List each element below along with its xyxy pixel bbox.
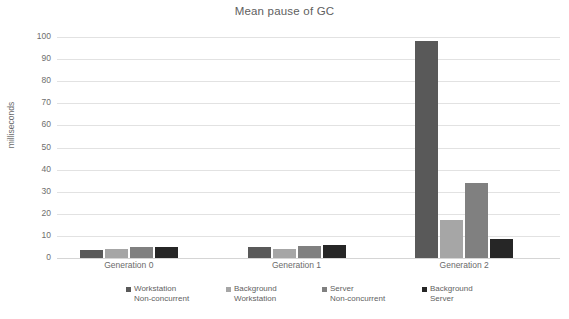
x-axis-category-label: Generation 1 <box>228 260 366 270</box>
legend-swatch-icon <box>322 287 327 292</box>
legend-item[interactable]: Background Server <box>422 284 473 304</box>
y-axis-tick-label: 90 <box>11 53 51 63</box>
bar <box>415 41 438 258</box>
legend-swatch-icon <box>226 287 231 292</box>
gridline <box>57 170 560 171</box>
bar <box>130 247 153 258</box>
y-axis-tick-label: 20 <box>11 208 51 218</box>
y-axis-tick-label: 100 <box>11 31 51 41</box>
x-axis-category-labels: Generation 0Generation 1Generation 2 <box>57 260 560 276</box>
bar <box>323 245 346 258</box>
gridline <box>57 258 560 259</box>
y-axis-tick-label: 10 <box>11 230 51 240</box>
bar <box>298 246 321 258</box>
gridline <box>57 125 560 126</box>
gridline <box>57 81 560 82</box>
y-axis-tick-labels: 0102030405060708090100 <box>0 37 57 258</box>
x-axis-category-label: Generation 0 <box>60 260 198 270</box>
legend-swatch-icon <box>422 287 427 292</box>
gridline <box>57 37 560 38</box>
legend-label: Background Server <box>430 284 473 304</box>
y-axis-tick-label: 0 <box>11 252 51 262</box>
plot-area <box>57 37 560 258</box>
bar <box>155 247 178 258</box>
legend-label: Workstation Non-concurrent <box>134 284 189 304</box>
gridline <box>57 103 560 104</box>
legend-swatch-icon <box>126 287 131 292</box>
legend-label: Background Workstation <box>234 284 277 304</box>
bar <box>490 239 513 258</box>
chart-container: Mean pause of GC milliseconds 0102030405… <box>0 0 569 319</box>
y-axis-tick-label: 70 <box>11 97 51 107</box>
legend-item[interactable]: Background Workstation <box>226 284 277 304</box>
gridline <box>57 59 560 60</box>
bar <box>105 249 128 258</box>
legend-item[interactable]: Server Non-concurrent <box>322 284 385 304</box>
y-axis-tick-label: 40 <box>11 164 51 174</box>
bar <box>465 183 488 258</box>
y-axis-tick-label: 60 <box>11 119 51 129</box>
y-axis-tick-label: 80 <box>11 75 51 85</box>
y-axis-tick-label: 30 <box>11 186 51 196</box>
bar <box>80 250 103 258</box>
gridline <box>57 148 560 149</box>
chart-legend: Workstation Non-concurrentBackground Wor… <box>126 284 456 314</box>
x-axis-category-label: Generation 2 <box>395 260 533 270</box>
bar <box>273 249 296 258</box>
legend-item[interactable]: Workstation Non-concurrent <box>126 284 189 304</box>
chart-title: Mean pause of GC <box>0 5 569 17</box>
legend-label: Server Non-concurrent <box>330 284 385 304</box>
y-axis-tick-label: 50 <box>11 142 51 152</box>
bar <box>440 220 463 258</box>
bar <box>248 247 271 258</box>
